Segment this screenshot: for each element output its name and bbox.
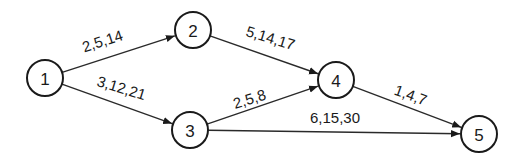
node-label: 4 <box>331 72 340 91</box>
edges-group: 2,5,143,12,215,14,172,5,81,4,76,15,30 <box>62 22 461 133</box>
edge-label-4-5: 1,4,7 <box>392 81 429 108</box>
node-label: 3 <box>185 122 194 141</box>
edge-label-3-5: 6,15,30 <box>310 109 360 126</box>
edge-3-5 <box>208 130 460 133</box>
node-4: 4 <box>318 62 354 98</box>
node-label: 5 <box>474 126 483 145</box>
node-1: 1 <box>27 60 63 96</box>
node-label: 1 <box>40 70 49 89</box>
edge-label-3-4: 2,5,8 <box>231 86 268 112</box>
node-label: 2 <box>188 22 197 41</box>
node-5: 5 <box>461 116 497 152</box>
diagram-canvas: 2,5,143,12,215,14,172,5,81,4,76,15,30 12… <box>0 0 522 163</box>
node-2: 2 <box>175 12 211 48</box>
network-diagram: 2,5,143,12,215,14,172,5,81,4,76,15,30 12… <box>0 0 522 163</box>
edge-label-2-4: 5,14,17 <box>244 22 297 53</box>
node-3: 3 <box>172 112 208 148</box>
edge-label-1-2: 2,5,14 <box>80 26 125 55</box>
